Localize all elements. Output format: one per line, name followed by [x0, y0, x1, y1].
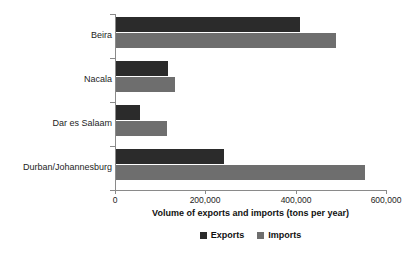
x-axis-line [115, 190, 387, 191]
legend-entry-imports: Imports [257, 230, 301, 240]
x-axis-tick-label-600000: 600,000 [371, 195, 402, 205]
bar-group-dar-es-salaam [115, 102, 386, 146]
bar-exports-nacala [115, 61, 168, 76]
bar-exports-beira [115, 17, 300, 32]
chart-legend: Exports Imports [115, 230, 386, 240]
category-label-durban-johannesburg: Durban/Johannesburg [2, 162, 112, 172]
y-axis-line [115, 14, 116, 191]
bar-group-durban-johannesburg [115, 146, 386, 190]
legend-label-imports: Imports [268, 230, 301, 240]
bar-exports-dar-es-salaam [115, 105, 140, 120]
legend-swatch-icon-imports [257, 232, 264, 239]
category-label-nacala: Nacala [2, 74, 112, 84]
x-axis-tick [386, 190, 387, 194]
x-axis-tick [296, 190, 297, 194]
x-axis-tick-label-200000: 200,000 [190, 195, 221, 205]
x-axis-tick [205, 190, 206, 194]
x-axis-tick-label-400000: 400,000 [281, 195, 312, 205]
legend-entry-exports: Exports [200, 230, 245, 240]
bar-group-nacala [115, 58, 386, 102]
category-label-beira: Beira [2, 30, 112, 40]
bar-imports-dar-es-salaam [115, 121, 167, 136]
bar-imports-durban-johannesburg [115, 165, 365, 180]
category-label-dar-es-salaam: Dar es Salaam [2, 118, 112, 128]
bar-imports-nacala [115, 77, 175, 92]
x-axis-title: Volume of exports and imports (tons per … [115, 208, 386, 218]
bar-group-beira [115, 14, 386, 58]
x-axis-tick [115, 190, 116, 194]
legend-swatch-icon-exports [200, 232, 207, 239]
x-axis-tick-label-0: 0 [113, 195, 118, 205]
plot-area [115, 14, 386, 190]
category-axis-labels: Beira Nacala Dar es Salaam Durban/Johann… [0, 14, 112, 190]
bar-exports-durban-johannesburg [115, 149, 224, 164]
legend-label-exports: Exports [211, 230, 245, 240]
bar-imports-beira [115, 33, 336, 48]
bar-chart-figure: Beira Nacala Dar es Salaam Durban/Johann… [0, 0, 405, 259]
